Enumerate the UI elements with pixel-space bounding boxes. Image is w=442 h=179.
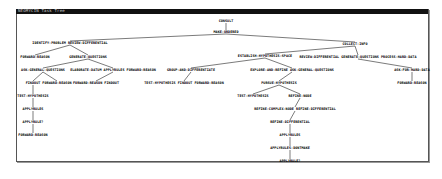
- tree-node[interactable]: ASK-FOR-HARD-DATA: [394, 68, 430, 72]
- tree-node[interactable]: GROUP-AND-DIFFERENTIATE: [167, 68, 215, 72]
- tree-node[interactable]: GENERATE-QUESTIONS: [69, 55, 107, 59]
- tree-node[interactable]: REVIEW-DIFFERENTIAL GENERATE-QUESTIONS P…: [299, 55, 416, 59]
- tree-node[interactable]: IDENTIFY-PROBLEM REVIEW-DIFFERENTIAL: [32, 41, 107, 45]
- tree-node[interactable]: COLLECT-INFO: [342, 42, 367, 46]
- tree-node[interactable]: ESTABLISH-HYPOTHESIS-SPACE: [238, 54, 292, 58]
- tree-node[interactable]: REFINE-COMPLEX-NODE REFINE-DIFFERENTIAL: [254, 107, 336, 111]
- tree-node[interactable]: FORWARD-REASON FINDOUT: [73, 81, 119, 85]
- tree-node[interactable]: FINDOUT: [26, 81, 41, 85]
- tree-edge: [43, 72, 57, 81]
- tree-node[interactable]: APPLYRULES-DONTMAKE: [270, 146, 310, 150]
- tree-edge: [279, 85, 300, 94]
- tree-node[interactable]: ELABORATE-DATUM APPLYRULES FORWARD-REASO…: [70, 68, 156, 72]
- tree-node[interactable]: TEST-HYPOTHESIS: [17, 94, 48, 98]
- tree-node[interactable]: APPLYRULE?: [280, 159, 301, 163]
- tree-edge: [290, 111, 295, 120]
- tree-edge: [70, 45, 88, 55]
- tree-edge: [279, 72, 292, 81]
- tree-edge: [253, 85, 279, 94]
- tree-node[interactable]: FORWARD-REASON: [397, 81, 426, 85]
- tree-node[interactable]: ASK-GENERAL-QUESTIONS: [21, 68, 65, 72]
- tree-node[interactable]: FORWARD-REASON: [20, 55, 49, 59]
- tree-node[interactable]: TEST-HYPOTHESIS FINDOUT FORWARD-REASON: [144, 81, 223, 85]
- tree-node[interactable]: REFINE-NODE: [288, 94, 311, 98]
- tree-node[interactable]: APPLYRULES: [280, 133, 301, 137]
- tree-node[interactable]: CONSULT: [219, 19, 234, 23]
- tree-node[interactable]: APPLYRULES: [23, 107, 44, 111]
- tree-edge: [191, 58, 265, 68]
- tree-node[interactable]: TEST-HYPOTHESIS: [237, 94, 268, 98]
- tree-edge: [35, 45, 70, 55]
- tree-edge: [358, 59, 412, 68]
- tree-edge: [88, 59, 113, 68]
- tree-node[interactable]: PURSUE-HYPOTHESIS: [261, 81, 297, 85]
- tree-edge: [184, 72, 191, 81]
- tree-edge: [96, 72, 113, 81]
- tree-edge: [265, 58, 292, 68]
- tree-node[interactable]: MAKE-ORDERED: [213, 30, 238, 34]
- tree-node[interactable]: FORWARD-REASON: [18, 133, 47, 137]
- tree-edge: [70, 34, 226, 41]
- tree-node[interactable]: EXPLORE-AND-REFINE ASK-GENERAL-QUESTIONS: [250, 68, 334, 72]
- tree-edge: [355, 46, 358, 55]
- tree-edge: [226, 34, 355, 42]
- tree-edge: [33, 72, 43, 81]
- tree-edge: [265, 46, 355, 54]
- tree-node[interactable]: FORWARD-REASON: [42, 81, 71, 85]
- tree-edge: [295, 98, 300, 107]
- tree-node[interactable]: APPLYRULE?: [23, 120, 44, 124]
- tree-edges: [0, 0, 442, 179]
- tree-node[interactable]: REFINE-DIFFERENTIAL: [270, 120, 310, 124]
- tree-edge: [43, 59, 88, 68]
